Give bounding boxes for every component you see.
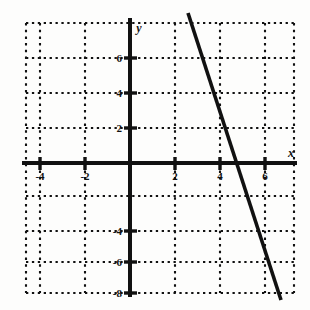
x-tick-label--2: -2 [80, 170, 90, 182]
x-tick-label--4: -4 [35, 170, 45, 182]
coordinate-graph-figure: -4 -2 2 4 6 6 4 2 -4 -6 -8 y x [0, 0, 310, 310]
figure-background [0, 0, 310, 310]
plot-canvas: -4 -2 2 4 6 6 4 2 -4 -6 -8 y x [0, 0, 310, 310]
y-tick-label--8: -8 [113, 287, 123, 299]
x-tick-label-4: 4 [217, 170, 223, 182]
y-tick-label-6: 6 [117, 52, 123, 64]
y-tick-label-2: 2 [117, 122, 123, 134]
y-axis-label: y [134, 21, 142, 35]
y-tick-label--6: -6 [113, 256, 123, 268]
x-tick-label-6: 6 [262, 170, 268, 182]
x-axis-label: x [287, 146, 294, 160]
x-tick-label-2: 2 [172, 170, 178, 182]
y-tick-label-4: 4 [117, 87, 123, 99]
y-tick-label--4: -4 [113, 225, 123, 237]
